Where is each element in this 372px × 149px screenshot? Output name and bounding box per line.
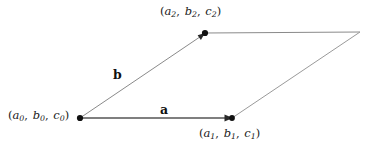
vertex-label-a0-b0-c0: (a0, b0, c0) (8, 110, 69, 123)
vertex-dot-a2-b2-c2 (202, 30, 208, 36)
vector-b-edge (80, 35, 204, 119)
diagram-canvas: (a2, b2, c2) (a0, b0, c0) (a1, b1, c1) b… (0, 0, 372, 149)
parallelogram-top-edge (205, 32, 360, 33)
vertex-dot-a0-b0-c0 (77, 115, 83, 121)
vertex-label-a1-b1-c1: (a1, b1, c1) (199, 128, 260, 141)
parallelogram-figure (0, 0, 372, 149)
vector-label-b: b (113, 69, 122, 82)
vertex-dot-a1-b1-c1 (229, 115, 235, 121)
vector-label-a: a (160, 104, 168, 117)
parallelogram-right-edge (232, 32, 360, 118)
vertex-label-a2-b2-c2: (a2, b2, c2) (160, 6, 221, 19)
